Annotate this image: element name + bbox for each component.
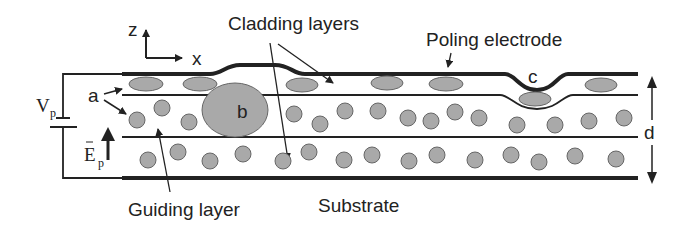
field-label: E xyxy=(84,144,96,165)
guiding-layer-label: Guiding layer xyxy=(128,199,241,220)
axis-icon xyxy=(146,30,182,58)
substrate-label: Substrate xyxy=(318,195,399,216)
voltage-subscript: p xyxy=(50,106,56,120)
defect-c-label: c xyxy=(528,66,538,87)
field-subscript: p xyxy=(98,156,104,170)
defect-a-label: a xyxy=(88,85,99,106)
lower-cladding-particles xyxy=(140,144,624,170)
cladding-layers-label: Cladding layers xyxy=(228,13,359,34)
defect-b xyxy=(202,83,268,137)
voltage-label: V xyxy=(36,95,50,116)
waveguide-poling-diagram: z x Cladding layers Poling electrode Gui… xyxy=(0,0,692,231)
axis-x-label: x xyxy=(192,48,202,69)
thickness-label: d xyxy=(644,122,655,143)
poling-electrode-label: Poling electrode xyxy=(426,29,562,50)
axis-z-label: z xyxy=(128,19,138,40)
defect-b-label: b xyxy=(237,101,248,122)
